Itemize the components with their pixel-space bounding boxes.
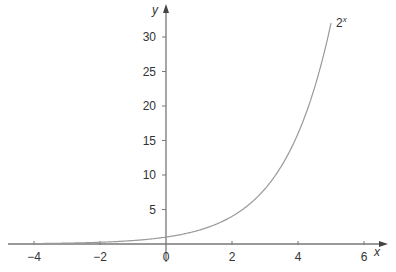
y-tick-label: 15 bbox=[143, 134, 157, 148]
axes bbox=[8, 4, 388, 262]
x-tick-label: 6 bbox=[361, 250, 368, 264]
y-axis-arrow-icon bbox=[163, 4, 169, 13]
x-tick-label: −4 bbox=[27, 250, 41, 264]
series-label: 2x bbox=[336, 15, 348, 30]
y-axis-label: y bbox=[151, 3, 159, 17]
y-tick-label: 25 bbox=[143, 65, 157, 79]
y-tick-label: 20 bbox=[143, 99, 157, 113]
x-tick-label: 4 bbox=[295, 250, 302, 264]
series-label-exponent: x bbox=[342, 15, 348, 24]
x-tick-label: 2 bbox=[229, 250, 236, 264]
y-tick-label: 30 bbox=[143, 30, 157, 44]
y-tick-label: 10 bbox=[143, 168, 157, 182]
y-tick-label: 5 bbox=[149, 203, 156, 217]
chart-container: −4−2024651015202530 x y 2x bbox=[0, 0, 396, 272]
x-axis-label: x bbox=[373, 245, 381, 259]
plot-area bbox=[34, 23, 331, 243]
x-tick-label: −2 bbox=[93, 250, 107, 264]
exponential-plot: −4−2024651015202530 x y 2x bbox=[0, 0, 396, 272]
tick-marks: −4−2024651015202530 bbox=[27, 30, 368, 264]
x-tick-label: 0 bbox=[163, 250, 170, 264]
x-axis-arrow-icon bbox=[379, 241, 388, 247]
curve-2-pow-x bbox=[34, 23, 331, 243]
